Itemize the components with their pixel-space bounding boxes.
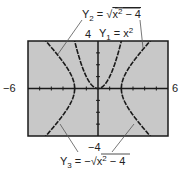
y1-label: Y1 = x2	[99, 26, 134, 42]
y-max-label: 4	[85, 28, 91, 40]
y-min-label: −4	[88, 141, 101, 153]
y3-label: Y3 = −√x2 − 4	[60, 154, 125, 170]
graph-figure: −6 6 4 −4 Y2 = √x2 − 4 Y1 = x2 Y3 = −√x2…	[0, 0, 185, 172]
x-max-label: 6	[172, 82, 178, 94]
y2-label: Y2 = √x2 − 4	[82, 7, 141, 23]
x-min-label: −6	[3, 82, 16, 94]
